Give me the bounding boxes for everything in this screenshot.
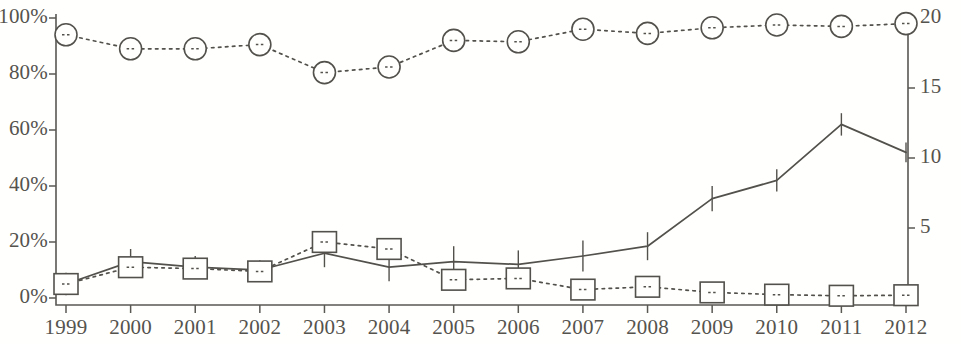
y-left-tick-label: 40% <box>0 172 48 197</box>
data-point-square <box>119 257 143 278</box>
x-tick-label: 2009 <box>677 315 747 340</box>
data-point-square <box>506 268 530 289</box>
y-left-tick-label: 60% <box>0 116 48 141</box>
data-point-circle <box>830 15 852 37</box>
data-point-square <box>312 232 336 253</box>
data-point-circle <box>637 22 659 44</box>
data-point-circle <box>55 24 77 46</box>
x-tick-label: 2006 <box>483 315 553 340</box>
data-point-circle <box>507 31 529 53</box>
x-tick-label: 2003 <box>289 315 359 340</box>
y-left-tick-label: 80% <box>0 60 48 85</box>
chart-figure: 0%20%40%60%80%100%5101520199920002001200… <box>0 0 961 344</box>
data-point-circle <box>249 34 271 56</box>
data-point-circle <box>572 18 594 40</box>
data-point-square <box>377 239 401 260</box>
x-tick-label: 2011 <box>806 315 876 340</box>
data-point-square <box>571 279 595 300</box>
x-tick-label: 2010 <box>742 315 812 340</box>
data-point-square <box>54 274 78 295</box>
data-point-square <box>183 258 207 279</box>
data-point-square <box>700 282 724 303</box>
chart-plot-area <box>0 0 961 344</box>
data-point-circle <box>701 17 723 39</box>
data-point-circle <box>895 13 917 35</box>
x-tick-label: 2007 <box>548 315 618 340</box>
y-left-tick-label: 100% <box>0 4 48 29</box>
x-tick-label: 2002 <box>225 315 295 340</box>
data-point-square <box>248 261 272 282</box>
data-point-circle <box>378 56 400 78</box>
data-point-circle <box>443 29 465 51</box>
y-right-tick-label: 5 <box>920 214 931 239</box>
x-tick-label: 2012 <box>871 315 941 340</box>
x-tick-label: 2001 <box>160 315 230 340</box>
data-point-square <box>829 285 853 306</box>
data-point-circle <box>120 38 142 60</box>
y-right-tick-label: 15 <box>920 74 941 99</box>
x-tick-label: 2000 <box>96 315 166 340</box>
data-point-square <box>442 269 466 290</box>
x-tick-label: 2008 <box>613 315 683 340</box>
y-left-tick-label: 20% <box>0 228 48 253</box>
data-point-circle <box>766 14 788 36</box>
x-tick-label: 1999 <box>31 315 101 340</box>
data-point-square <box>636 276 660 297</box>
x-tick-label: 2005 <box>419 315 489 340</box>
x-tick-label: 2004 <box>354 315 424 340</box>
data-point-circle <box>184 38 206 60</box>
y-right-tick-label: 20 <box>920 4 941 29</box>
data-point-circle <box>313 62 335 84</box>
y-left-tick-label: 0% <box>0 284 48 309</box>
y-right-tick-label: 10 <box>920 144 941 169</box>
data-point-square <box>894 285 918 306</box>
data-point-square <box>765 284 789 305</box>
